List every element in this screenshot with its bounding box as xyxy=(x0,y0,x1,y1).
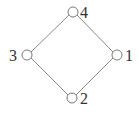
edge-3-2 xyxy=(31,58,68,95)
node-1 xyxy=(112,50,122,60)
node-3 xyxy=(22,50,32,60)
edges xyxy=(31,15,113,95)
node-label-3: 3 xyxy=(9,47,17,64)
node-label-4: 4 xyxy=(80,4,88,21)
node-label-1: 1 xyxy=(125,47,133,64)
node-label-2: 2 xyxy=(80,90,88,107)
hasse-diagram: 4 3 1 2 xyxy=(0,0,139,114)
edge-4-3 xyxy=(31,15,69,52)
nodes xyxy=(22,7,122,103)
node-2 xyxy=(67,93,77,103)
node-4 xyxy=(68,7,78,17)
